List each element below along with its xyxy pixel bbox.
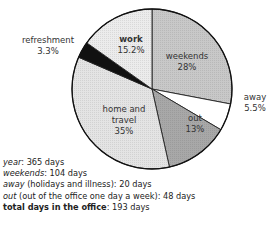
note-away: away (holidays and illness): 20 days — [3, 179, 195, 190]
chart-notes: year: 365 days weekends: 104 days away (… — [3, 157, 195, 213]
label-away: away5.5% — [238, 92, 272, 114]
label-home-travel: home andtravel35% — [96, 104, 152, 137]
note-total: total days in the office: 193 days — [3, 202, 195, 213]
label-weekends: weekends28% — [160, 51, 214, 73]
note-year: year: 365 days — [3, 157, 195, 168]
label-work: work15.2% — [106, 34, 156, 56]
note-weekends: weekends: 104 days — [3, 168, 195, 179]
note-out: out (out of the office one day a week): … — [3, 191, 195, 202]
label-out: out13% — [180, 113, 210, 135]
label-refreshment: refreshment3.3% — [18, 35, 78, 57]
